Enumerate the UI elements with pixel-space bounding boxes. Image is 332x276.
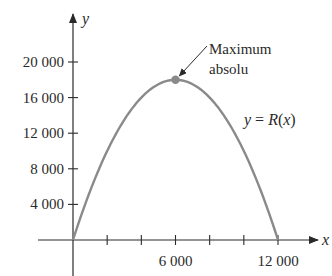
maximum-point-marker xyxy=(171,76,179,84)
revenue-curve xyxy=(73,80,278,240)
axes: x y xyxy=(38,10,329,276)
x-tick-label: 12 000 xyxy=(257,253,298,269)
x-axis-label: x xyxy=(321,231,329,248)
y-tick-label: 16 000 xyxy=(23,90,64,106)
chart: x y 6 00012 000 4 0008 00012 00016 00020… xyxy=(0,0,332,276)
curve-label: y = R(x) xyxy=(242,111,296,129)
y-ticks: 4 0008 00012 00016 00020 000 xyxy=(23,54,78,212)
y-tick-label: 12 000 xyxy=(23,125,64,141)
annotation-label-line2: absolu xyxy=(209,61,249,77)
y-tick-label: 4 000 xyxy=(30,196,64,212)
y-tick-label: 8 000 xyxy=(30,161,64,177)
annotation-label-line1: Maximum xyxy=(209,41,272,57)
annotation-arrow xyxy=(180,46,208,76)
y-axis-label: y xyxy=(80,10,90,28)
y-tick-label: 20 000 xyxy=(23,54,64,70)
x-tick-label: 6 000 xyxy=(159,253,193,269)
